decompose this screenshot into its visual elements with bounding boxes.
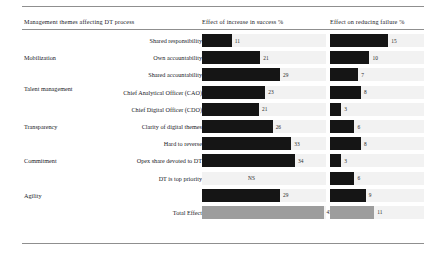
failure-value: 9 (369, 192, 372, 198)
failure-value: 8 (364, 89, 367, 95)
item-label: Chief Analytical Officer (CAO) (98, 89, 202, 97)
failure-value: 6 (357, 124, 360, 130)
chart-row: TransparencyClarity of digital themes266 (0, 119, 446, 136)
success-value: 34 (298, 158, 303, 164)
chart-row: Chief Digital Officer (CDO)213 (0, 102, 446, 119)
success-bar (202, 189, 280, 202)
success-value: 11 (235, 38, 240, 44)
success-value: 29 (283, 192, 288, 198)
failure-bar (330, 120, 354, 133)
success-bar-cell: 29 (202, 68, 326, 81)
failure-bar (330, 51, 369, 64)
success-bar (202, 137, 291, 150)
chart-row: Agility299 (0, 188, 446, 205)
success-bar-cell: 21 (202, 51, 326, 64)
column-header-success: Effect of increase in success % (202, 18, 283, 25)
rule-bottom (22, 243, 424, 244)
chart-row: DT is top priorityNS6 (0, 171, 446, 188)
failure-bar-cell: 7 (330, 68, 426, 81)
item-label: Own accountability (98, 54, 202, 62)
bar-track (202, 172, 326, 185)
success-bar (202, 68, 280, 81)
failure-bar-cell: 6 (330, 120, 426, 133)
total-row: Total Effect4511 (0, 205, 446, 224)
success-bar (202, 34, 232, 47)
failure-bar (330, 103, 341, 116)
success-value: 29 (283, 72, 288, 78)
failure-bar (330, 68, 358, 81)
success-bar (202, 154, 295, 167)
success-bar (202, 51, 260, 64)
success-bar (202, 206, 324, 219)
success-value: 21 (262, 106, 267, 112)
success-bar-cell: 29 (202, 189, 326, 202)
failure-bar (330, 34, 388, 47)
chart-row: MobilizationOwn accountability2110 (0, 50, 446, 67)
success-bar-cell: 11 (202, 34, 326, 47)
item-label: Opex share devoted to DT (98, 157, 202, 165)
group-label: Transparency (24, 123, 98, 130)
chart-row: CommitmentOpex share devoted to DT343 (0, 153, 446, 170)
failure-value: 3 (344, 106, 347, 112)
success-bar (202, 120, 273, 133)
success-bar-cell: 33 (202, 137, 326, 150)
success-bar-cell: 26 (202, 120, 326, 133)
chart-row: Shared accountability297 (0, 67, 446, 84)
failure-value: 3 (344, 158, 347, 164)
failure-bar-cell: 3 (330, 103, 426, 116)
group-label: Commitment (24, 157, 98, 164)
failure-bar-cell: 6 (330, 172, 426, 185)
success-bar (202, 86, 265, 99)
failure-bar (330, 206, 374, 219)
failure-value: 10 (372, 55, 377, 61)
success-value: 23 (268, 89, 273, 95)
failure-bar (330, 172, 354, 185)
column-header-themes: Management themes affecting DT process (24, 18, 134, 25)
success-bar (202, 103, 259, 116)
chart-row: Talent managementChief Analytical Office… (0, 85, 446, 102)
success-value: 33 (294, 141, 299, 147)
chart-sheet: Management themes affecting DT process E… (0, 0, 446, 256)
failure-value: 11 (377, 209, 382, 215)
column-header-failure: Effect on reducing failure % (330, 18, 405, 25)
chart-row: Hard to reverse338 (0, 136, 446, 153)
rule-top (22, 6, 424, 7)
group-label: Mobilization (24, 54, 98, 61)
success-bar-cell: NS (202, 172, 326, 185)
failure-bar (330, 86, 361, 99)
chart-row: Shared responsibility1115 (0, 33, 446, 50)
success-value: 21 (263, 55, 268, 61)
success-bar-cell: 45 (202, 206, 326, 219)
failure-value: 15 (391, 38, 396, 44)
success-bar-cell: 21 (202, 103, 326, 116)
group-label: Talent management (24, 85, 98, 92)
failure-bar-cell: 15 (330, 34, 426, 47)
success-bar-cell: 23 (202, 86, 326, 99)
failure-bar (330, 189, 366, 202)
item-label: Hard to reverse (98, 140, 202, 148)
failure-bar-cell: 8 (330, 86, 426, 99)
item-label: Shared accountability (98, 71, 202, 79)
failure-bar-cell: 8 (330, 137, 426, 150)
failure-bar (330, 154, 341, 167)
item-label: Clarity of digital themes (98, 123, 202, 131)
success-bar-cell: 34 (202, 154, 326, 167)
item-label: DT is top priority (98, 175, 202, 183)
success-value: NS (248, 175, 255, 181)
success-value: 26 (276, 124, 281, 130)
failure-bar-cell: 11 (330, 206, 426, 219)
item-label: Total Effect (98, 209, 202, 217)
group-label: Agility (24, 192, 98, 199)
failure-bar-cell: 9 (330, 189, 426, 202)
chart-rows: Shared responsibility1115MobilizationOwn… (0, 33, 446, 224)
failure-bar-cell: 3 (330, 154, 426, 167)
failure-value: 8 (364, 141, 367, 147)
item-label: Chief Digital Officer (CDO) (98, 106, 202, 114)
failure-bar (330, 137, 361, 150)
item-label: Shared responsibility (98, 37, 202, 45)
rule-header-separator (22, 29, 424, 30)
failure-value: 7 (361, 72, 364, 78)
failure-bar-cell: 10 (330, 51, 426, 64)
failure-value: 6 (357, 175, 360, 181)
